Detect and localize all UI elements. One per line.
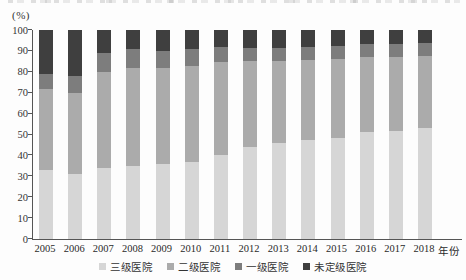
bar-segment-一级医院 <box>243 48 257 62</box>
bar-segment-未定级医院 <box>68 30 82 76</box>
y-axis-tick <box>28 238 32 239</box>
y-axis-tick <box>28 134 32 135</box>
bar-segment-二级医院 <box>301 60 315 139</box>
bar-segment-二级医院 <box>126 68 140 166</box>
bar-segment-未定级医院 <box>389 30 403 44</box>
plot-area <box>32 30 462 240</box>
legend-swatch-icon <box>167 263 174 270</box>
y-axis-tick-label: 40 <box>0 149 28 162</box>
y-axis-tick <box>28 175 32 176</box>
bar-segment-一级医院 <box>185 49 199 66</box>
bar-segment-未定级医院 <box>156 30 170 51</box>
bar-segment-二级医院 <box>68 93 82 175</box>
bar-segment-三级医院 <box>389 131 403 239</box>
bar-segment-三级医院 <box>418 128 432 239</box>
bar-column-2018 <box>418 30 432 239</box>
legend-item: 三级医院 <box>99 259 152 274</box>
y-axis-tick-label: 80 <box>0 65 28 78</box>
bar-segment-三级医院 <box>97 168 111 239</box>
bar-segment-一级医院 <box>389 44 403 58</box>
bar-segment-一级医院 <box>301 47 315 61</box>
y-axis-tick <box>28 50 32 51</box>
bar-column-2010 <box>185 30 199 239</box>
legend-item: 二级医院 <box>167 259 220 274</box>
y-axis-tick <box>28 71 32 72</box>
bar-column-2009 <box>156 30 170 239</box>
bar-segment-二级医院 <box>272 61 286 143</box>
x-axis-tick-label: 2018 <box>407 243 441 254</box>
bar-column-2008 <box>126 30 140 239</box>
bar-segment-一级医院 <box>156 51 170 68</box>
bar-segment-三级医院 <box>272 143 286 239</box>
bar-segment-二级医院 <box>214 62 228 155</box>
bar-segment-一级医院 <box>68 76 82 93</box>
bar-column-2014 <box>301 30 315 239</box>
y-axis-tick <box>28 154 32 155</box>
bar-segment-二级医院 <box>39 89 53 171</box>
bar-segment-未定级医院 <box>243 30 257 48</box>
bar-segment-一级医院 <box>97 53 111 72</box>
bar-segment-一级医院 <box>39 74 53 89</box>
bar-segment-未定级医院 <box>331 30 345 46</box>
y-axis-tick-label: 90 <box>0 44 28 57</box>
bar-segment-一级医院 <box>418 43 432 57</box>
bar-segment-一级医院 <box>360 44 374 58</box>
y-axis-tick-label: 20 <box>0 191 28 204</box>
y-axis-tick <box>28 92 32 93</box>
bar-segment-二级医院 <box>360 57 374 132</box>
y-axis-tick-label: 50 <box>0 128 28 141</box>
bar-segment-未定级医院 <box>301 30 315 47</box>
bar-segment-未定级医院 <box>39 30 53 74</box>
legend-label: 未定级医院 <box>314 259 367 274</box>
y-axis-tick <box>28 217 32 218</box>
y-axis-tick-label: 70 <box>0 86 28 99</box>
bar-segment-二级医院 <box>331 59 345 137</box>
y-axis-tick <box>28 196 32 197</box>
bar-segment-三级医院 <box>39 170 53 239</box>
y-axis-tick-label: 30 <box>0 170 28 183</box>
bar-segment-三级医院 <box>185 162 199 239</box>
x-axis-title: 年份 <box>438 243 460 258</box>
bar-segment-未定级医院 <box>418 30 432 43</box>
bar-segment-未定级医院 <box>97 30 111 53</box>
y-axis-unit-label: (%) <box>12 9 30 21</box>
bar-column-2013 <box>272 30 286 239</box>
bar-segment-三级医院 <box>301 140 315 239</box>
bar-segment-三级医院 <box>360 132 374 239</box>
bar-column-2011 <box>214 30 228 239</box>
bar-segment-未定级医院 <box>360 30 374 44</box>
bar-segment-二级医院 <box>243 61 257 147</box>
bar-segment-未定级医院 <box>126 30 140 49</box>
bar-column-2006 <box>68 30 82 239</box>
bar-segment-二级医院 <box>97 72 111 168</box>
y-axis-tick-label: 100 <box>0 24 28 37</box>
bar-column-2015 <box>331 30 345 239</box>
legend-item: 一级医院 <box>235 259 288 274</box>
bar-segment-二级医院 <box>389 57 403 131</box>
bar-segment-一级医院 <box>272 48 286 61</box>
bar-segment-三级医院 <box>214 155 228 239</box>
bar-segment-三级医院 <box>68 174 82 239</box>
bar-segment-一级医院 <box>126 49 140 68</box>
bar-segment-一级医院 <box>331 46 345 60</box>
bar-column-2012 <box>243 30 257 239</box>
chart-screenshot: (%) 0102030405060708090100 2005200620072… <box>0 0 466 280</box>
legend-swatch-icon <box>99 263 106 270</box>
legend-swatch-icon <box>235 263 242 270</box>
y-axis-tick <box>28 29 32 30</box>
legend-swatch-icon <box>303 263 310 270</box>
bar-column-2017 <box>389 30 403 239</box>
clipped-title-remnant <box>8 0 460 3</box>
bar-segment-三级医院 <box>243 147 257 239</box>
bar-segment-三级医院 <box>126 166 140 239</box>
bar-segment-三级医院 <box>156 164 170 239</box>
chart-legend: 三级医院二级医院一级医院未定级医院 <box>0 259 466 274</box>
bar-segment-二级医院 <box>185 66 199 162</box>
bar-segment-二级医院 <box>156 68 170 164</box>
y-axis-tick-label: 0 <box>0 233 28 246</box>
bar-segment-未定级医院 <box>272 30 286 48</box>
bar-segment-未定级医院 <box>214 30 228 47</box>
y-axis-tick <box>28 113 32 114</box>
y-axis-tick-label: 60 <box>0 107 28 120</box>
legend-item: 未定级医院 <box>303 259 367 274</box>
